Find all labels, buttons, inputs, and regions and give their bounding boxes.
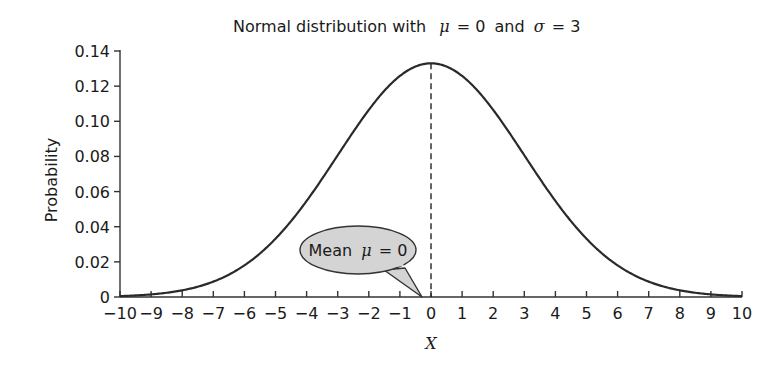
y-tick-label: 0.04 [74, 218, 110, 237]
x-tick-label: −1 [388, 304, 412, 323]
x-tick-label: −3 [326, 304, 350, 323]
x-tick-label: 4 [550, 304, 560, 323]
x-tick-label: −2 [357, 304, 381, 323]
title-sigma-value: = 3 [552, 17, 581, 36]
y-ticks: 00.020.040.060.080.100.120.14 [74, 42, 120, 307]
callout-mu-symbol: μ [361, 241, 371, 260]
x-tick-label: 6 [613, 304, 623, 323]
y-tick-label: 0.12 [74, 77, 110, 96]
title-mu-value: = 0 [457, 17, 486, 36]
mean-callout: Mean μ = 0 [300, 226, 422, 297]
title-sigma-symbol: σ [534, 17, 546, 36]
x-tick-label: 8 [675, 304, 685, 323]
normal-distribution-chart: Normal distribution with μ = 0 and σ = 3… [0, 0, 782, 371]
x-axis-label: X [423, 334, 437, 353]
x-tick-label: −5 [264, 304, 288, 323]
callout-value: = 0 [379, 241, 408, 260]
x-tick-label: −7 [202, 304, 226, 323]
x-ticks: −10−9−8−7−6−5−4−3−2−1012345678910 [103, 291, 752, 323]
x-tick-label: −9 [139, 304, 163, 323]
y-tick-label: 0.06 [74, 183, 110, 202]
y-tick-label: 0.08 [74, 147, 110, 166]
title-prefix: Normal distribution with [233, 17, 426, 36]
y-tick-label: 0.14 [74, 42, 110, 61]
callout-prefix: Mean [309, 241, 353, 260]
title-mu-symbol: μ [439, 17, 449, 36]
x-tick-label: 2 [488, 304, 498, 323]
x-tick-label: −10 [103, 304, 137, 323]
y-tick-label: 0.10 [74, 112, 110, 131]
x-tick-label: 10 [732, 304, 752, 323]
x-tick-label: 0 [426, 304, 436, 323]
x-tick-label: −6 [233, 304, 257, 323]
y-axis-label: Probability [42, 138, 61, 223]
x-tick-label: 3 [519, 304, 529, 323]
x-tick-label: 5 [581, 304, 591, 323]
x-tick-label: −8 [170, 304, 194, 323]
x-tick-label: 9 [706, 304, 716, 323]
title-and: and [495, 17, 525, 36]
chart-title: Normal distribution with μ = 0 and σ = 3 [233, 17, 580, 36]
y-tick-label: 0.02 [74, 253, 110, 272]
callout-bubble-shape [384, 268, 422, 297]
x-tick-label: 1 [457, 304, 467, 323]
x-tick-label: −4 [295, 304, 319, 323]
x-tick-label: 7 [644, 304, 654, 323]
